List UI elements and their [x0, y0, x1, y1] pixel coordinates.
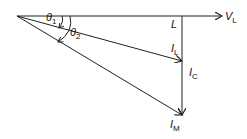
il-label: IL [171, 42, 179, 57]
l-label: L [171, 18, 177, 30]
im-label: IM [170, 118, 180, 133]
theta1-label: θ1 [46, 11, 57, 26]
ic-label: IC [189, 66, 198, 81]
phasor-svg: θ1 θ2 L VL IL IC IM [0, 0, 247, 139]
vl-label: VL [225, 10, 237, 25]
theta1-arc [59, 16, 63, 28]
theta2-label: θ2 [70, 26, 81, 41]
im-phasor [17, 16, 182, 115]
il-phasor [17, 16, 182, 61]
phasor-diagram: θ1 θ2 L VL IL IC IM [0, 0, 247, 139]
